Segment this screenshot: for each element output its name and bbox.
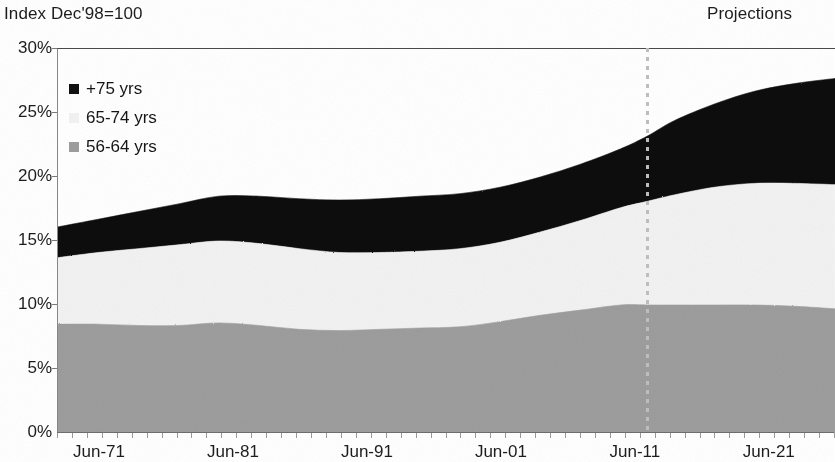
y-tick-label: 5%	[2, 358, 52, 378]
x-tick-mark	[819, 433, 820, 438]
x-tick-label: Jun-91	[341, 442, 393, 462]
x-tick-mark	[117, 433, 118, 438]
x-tick-mark	[311, 433, 312, 438]
x-tick-mark	[446, 433, 447, 438]
x-tick-mark	[401, 433, 402, 438]
x-tick-label: Jun-71	[73, 442, 125, 462]
x-tick-mark	[729, 433, 730, 438]
x-tick-mark	[251, 433, 252, 438]
x-axis: Jun-71Jun-81Jun-91Jun-01Jun-11Jun-21	[0, 432, 834, 462]
x-tick-mark	[102, 433, 103, 438]
x-tick-mark	[132, 433, 133, 438]
x-tick-mark	[625, 433, 626, 438]
x-tick-mark	[640, 433, 641, 438]
legend-item-label: +75 yrs	[86, 79, 142, 99]
y-tick-label: 30%	[2, 38, 52, 58]
legend-swatch-gray-icon	[69, 142, 79, 152]
legend-item-label: 56-64 yrs	[86, 137, 157, 157]
x-tick-mark	[460, 433, 461, 438]
x-tick-mark	[431, 433, 432, 438]
x-tick-mark	[177, 433, 178, 438]
x-tick-mark	[236, 433, 237, 438]
x-tick-mark	[341, 433, 342, 438]
x-tick-mark	[610, 433, 611, 438]
legend-item: +75 yrs	[69, 74, 157, 103]
x-tick-mark	[490, 433, 491, 438]
y-tick-label: 15%	[2, 230, 52, 250]
x-tick-mark	[326, 433, 327, 438]
x-tick-mark	[206, 433, 207, 438]
x-tick-mark	[475, 433, 476, 438]
x-tick-mark	[87, 433, 88, 438]
x-tick-mark	[700, 433, 701, 438]
x-tick-mark	[505, 433, 506, 438]
legend-item: 65-74 yrs	[69, 103, 157, 132]
chart-legend: +75 yrs65-74 yrs56-64 yrs	[69, 74, 157, 161]
x-tick-mark	[655, 433, 656, 438]
legend-swatch-black-icon	[69, 84, 79, 94]
x-tick-mark	[72, 433, 73, 438]
x-tick-mark	[191, 433, 192, 438]
x-tick-mark	[281, 433, 282, 438]
x-tick-mark	[789, 433, 790, 438]
x-tick-mark	[520, 433, 521, 438]
x-tick-mark	[804, 433, 805, 438]
x-tick-mark	[595, 433, 596, 438]
x-tick-mark	[744, 433, 745, 438]
x-tick-mark	[670, 433, 671, 438]
legend-item: 56-64 yrs	[69, 132, 157, 161]
x-tick-mark	[774, 433, 775, 438]
projections-label: Projections	[707, 4, 792, 24]
x-tick-mark	[685, 433, 686, 438]
legend-swatch-white-icon	[69, 113, 79, 123]
plot-area	[57, 48, 835, 433]
x-tick-mark	[565, 433, 566, 438]
x-tick-mark	[714, 433, 715, 438]
x-tick-mark	[550, 433, 551, 438]
legend-item-label: 65-74 yrs	[86, 108, 157, 128]
projection-divider-line	[646, 48, 649, 432]
x-tick-mark	[416, 433, 417, 438]
x-tick-mark	[580, 433, 581, 438]
x-tick-label: Jun-81	[207, 442, 259, 462]
x-tick-mark	[57, 433, 58, 438]
x-tick-label: Jun-11	[610, 442, 661, 462]
x-tick-mark	[221, 433, 222, 438]
x-tick-mark	[162, 433, 163, 438]
x-tick-mark	[386, 433, 387, 438]
stacked-area-plot	[58, 49, 835, 433]
x-tick-mark	[371, 433, 372, 438]
y-tick-label: 20%	[2, 166, 52, 186]
y-tick-label: 25%	[2, 102, 52, 122]
y-axis: 0%5%10%15%20%25%30%	[0, 0, 52, 462]
x-tick-mark	[356, 433, 357, 438]
y-tick-label: 10%	[2, 294, 52, 314]
x-tick-mark	[535, 433, 536, 438]
x-tick-mark	[296, 433, 297, 438]
x-tick-label: Jun-01	[475, 442, 527, 462]
x-tick-mark	[266, 433, 267, 438]
x-tick-label: Jun-21	[743, 442, 795, 462]
x-tick-mark	[759, 433, 760, 438]
x-tick-mark	[147, 433, 148, 438]
